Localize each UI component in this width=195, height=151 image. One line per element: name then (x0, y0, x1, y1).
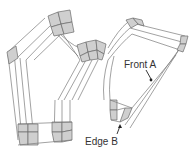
edge-b-label: Edge B (85, 136, 118, 147)
right-arm (122, 22, 185, 128)
edge-b-annotation: Edge B (85, 124, 122, 147)
front-a-arrow (146, 70, 151, 79)
middle-legs (58, 56, 114, 100)
front-a-label: Front A (124, 59, 157, 70)
mesh-diagram: Front A Edge B (0, 0, 195, 151)
front-a-annotation: Front A (124, 59, 157, 81)
